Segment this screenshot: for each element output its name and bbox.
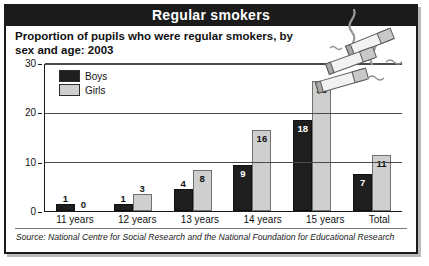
bar-boys-Total: 7 bbox=[353, 174, 372, 211]
y-axis: 0102030 bbox=[6, 64, 40, 212]
y-tick-mark bbox=[38, 64, 42, 65]
bar-value-label: 1 bbox=[115, 193, 132, 204]
bar-value-label: 18 bbox=[294, 123, 311, 134]
bar-value-label: 0 bbox=[75, 199, 92, 210]
cigarettes-illustration bbox=[294, 8, 410, 108]
bar-girls-12-years: 3 bbox=[133, 194, 152, 211]
bar-value-label: 9 bbox=[234, 168, 251, 179]
bar-value-label: 1 bbox=[57, 193, 74, 204]
x-label-13-years: 13 years bbox=[181, 214, 219, 228]
bar-group: 48 bbox=[174, 64, 212, 211]
source-divider bbox=[15, 228, 407, 229]
bar-value-label: 4 bbox=[175, 178, 192, 189]
bar-boys-14-years: 9 bbox=[233, 165, 252, 211]
x-label-Total: Total bbox=[369, 214, 390, 228]
bar-girls-14-years: 16 bbox=[252, 130, 271, 211]
y-tick-30: 30 bbox=[25, 58, 36, 69]
bar-value-label: 8 bbox=[194, 173, 211, 184]
y-tick-20: 20 bbox=[25, 107, 36, 118]
x-axis-labels: 11 years12 years13 years14 years15 years… bbox=[44, 214, 402, 228]
bar-boys-12-years: 1 bbox=[114, 204, 133, 211]
bar-girls-13-years: 8 bbox=[193, 170, 212, 211]
bar-value-label: 16 bbox=[253, 133, 270, 144]
bar-boys-15-years: 18 bbox=[293, 120, 312, 211]
gridline-20 bbox=[45, 113, 402, 115]
x-label-12-years: 12 years bbox=[118, 214, 156, 228]
bar-boys-11-years: 1 bbox=[56, 204, 75, 211]
y-tick-10: 10 bbox=[25, 157, 36, 168]
x-label-11-years: 11 years bbox=[56, 214, 94, 228]
source-note: Source: National Centre for Social Resea… bbox=[16, 232, 408, 242]
x-label-15-years: 15 years bbox=[306, 214, 344, 228]
bar-value-label: 3 bbox=[134, 183, 151, 194]
chart-subtitle: Proportion of pupils who were regular sm… bbox=[15, 29, 305, 57]
y-tick-mark bbox=[38, 212, 42, 213]
y-tick-0: 0 bbox=[30, 206, 36, 217]
bar-group: 10 bbox=[56, 64, 92, 211]
x-label-14-years: 14 years bbox=[243, 214, 281, 228]
bar-group: 916 bbox=[233, 64, 271, 211]
bar-value-label: 7 bbox=[354, 177, 371, 188]
bar-boys-13-years: 4 bbox=[174, 189, 193, 211]
chart-card: Regular smokers Proportion of pupils who… bbox=[4, 4, 418, 254]
bar-group: 13 bbox=[114, 64, 152, 211]
y-tick-mark bbox=[38, 113, 42, 114]
gridline-10 bbox=[45, 162, 402, 164]
y-tick-mark bbox=[38, 163, 42, 164]
